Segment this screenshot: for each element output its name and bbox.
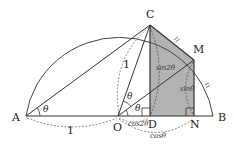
label-a: A	[11, 111, 21, 124]
label-d: D	[148, 118, 157, 131]
right-angle-d	[142, 108, 150, 116]
label-theta-o-lower: θ	[135, 103, 141, 113]
label-b: B	[218, 111, 226, 124]
label-theta-a: θ	[43, 104, 49, 114]
label-o: O	[113, 121, 122, 134]
equal-tick-cm	[174, 37, 180, 42]
label-costheta: cosθ	[150, 132, 167, 140]
label-sin2theta: sin2θ	[156, 64, 176, 72]
label-cos2theta: cos2θ	[128, 120, 149, 128]
angle-arc-o2	[123, 101, 131, 107]
label-length-oc: 1	[123, 58, 130, 71]
label-n: N	[190, 118, 200, 131]
angle-arc-a	[37, 108, 40, 116]
label-theta-o-upper: θ	[127, 91, 133, 101]
geometry-diagram: A O B C M D N θ θ θ 1 1 sin2θ sinθ cos2θ…	[0, 0, 234, 150]
label-c: C	[146, 8, 154, 21]
label-m: M	[193, 43, 204, 56]
segment-ac	[26, 25, 150, 116]
equal-tick-mb	[205, 83, 210, 88]
label-length-ao: 1	[67, 124, 74, 137]
label-sintheta: sinθ	[180, 85, 195, 93]
angle-arc-o	[126, 110, 128, 116]
